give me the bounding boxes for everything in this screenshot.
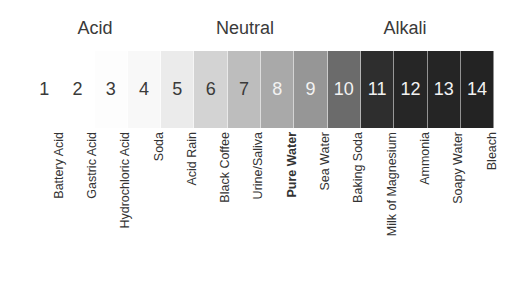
substance-label: Bleach: [485, 132, 499, 170]
ph-cell-3: 3: [95, 51, 128, 128]
ph-cell-11: 11: [361, 51, 394, 128]
ph-cell-13: 13: [428, 51, 461, 128]
group-label-alkali: Alkali: [345, 18, 465, 39]
ph-cell-5: 5: [161, 51, 194, 128]
group-label-acid: Acid: [35, 18, 155, 39]
ph-color-scale: 1234567891011121314: [28, 51, 494, 128]
ph-cell-4: 4: [128, 51, 161, 128]
ph-cell-1: 1: [28, 51, 61, 128]
ph-cell-9: 9: [294, 51, 327, 128]
group-label-neutral: Neutral: [185, 18, 305, 39]
ph-cell-8: 8: [261, 51, 294, 128]
ph-cell-14: 14: [461, 51, 494, 128]
ph-cell-7: 7: [228, 51, 261, 128]
substance-labels: Battery AcidGastric AcidHydrochloric Aci…: [28, 132, 494, 282]
ph-cell-10: 10: [328, 51, 361, 128]
ph-cell-2: 2: [61, 51, 94, 128]
ph-cell-12: 12: [394, 51, 427, 128]
ph-cell-6: 6: [194, 51, 227, 128]
